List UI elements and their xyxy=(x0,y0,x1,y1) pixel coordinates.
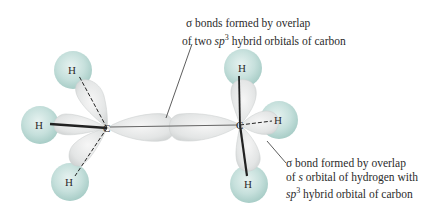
text-fragment: hybrid orbital of carbon xyxy=(300,188,412,200)
annotation-ch-line3: sp3 hybrid orbital of carbon xyxy=(286,184,418,201)
annotation-cc-sigma-bond: σ bonds formed by overlap of two sp3 hyb… xyxy=(182,17,346,48)
text-fragment: of two xyxy=(182,34,215,46)
text-sp: sp xyxy=(215,34,225,46)
leader-line-cc xyxy=(166,44,192,118)
label-h-left-top: H xyxy=(68,64,76,76)
label-c-right: C xyxy=(236,119,243,131)
lobe-right-cc xyxy=(169,113,240,141)
label-c-left: C xyxy=(103,122,110,134)
text-fragment: orbital of hydrogen with xyxy=(303,171,418,183)
label-h-right-bottom: H xyxy=(244,178,252,190)
annotation-ch-line1: σ bond formed by overlap xyxy=(286,157,418,171)
text-sp: sp xyxy=(286,188,296,200)
label-h-left-bottom: H xyxy=(65,176,73,188)
annotation-ch-line2: of s orbital of hydrogen with xyxy=(286,171,418,185)
annotation-cc-line2: of two sp3 hybrid orbitals of carbon xyxy=(182,31,346,48)
annotation-cc-line1: σ bonds formed by overlap xyxy=(182,17,346,31)
annotation-ch-sigma-bond: σ bond formed by overlap of s orbital of… xyxy=(286,157,418,201)
text-fragment: of xyxy=(286,171,298,183)
bond-right-top-wedge xyxy=(239,76,240,125)
left-carbon-orbitals xyxy=(54,80,174,166)
label-h-left-side: H xyxy=(35,119,43,131)
label-h-right-top: H xyxy=(238,62,246,74)
leader-line-ch xyxy=(267,141,286,163)
text-fragment: hybrid orbitals of carbon xyxy=(229,34,346,46)
label-h-right-side: H xyxy=(274,114,282,126)
lobe-left-cc xyxy=(107,114,174,142)
